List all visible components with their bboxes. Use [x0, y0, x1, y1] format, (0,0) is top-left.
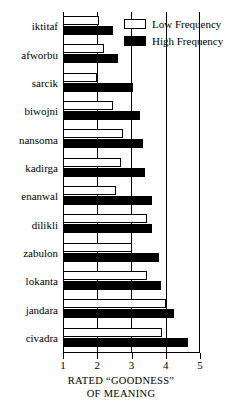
bar-high-frequency [63, 338, 188, 347]
bar-low-frequency [63, 271, 147, 280]
bar-low-frequency [63, 158, 121, 167]
bar-high-frequency [63, 83, 133, 92]
category-label: zabulon [0, 247, 58, 259]
bar-high-frequency [63, 253, 159, 262]
bar-row [63, 210, 200, 238]
category-label: sarcik [0, 77, 58, 89]
bar-row [63, 182, 200, 210]
category-label: dilikli [0, 219, 58, 231]
x-tick-label: 1 [53, 359, 73, 372]
bar-high-frequency [63, 54, 118, 63]
legend: Low Frequency High Frequency [124, 16, 238, 50]
bar-row [63, 154, 200, 182]
bar-low-frequency [63, 214, 147, 223]
bar-row [63, 69, 200, 97]
x-tick-label: 3 [122, 359, 142, 372]
bar-high-frequency [63, 309, 174, 318]
bar-low-frequency [63, 101, 113, 110]
bar-low-frequency [63, 44, 104, 53]
legend-item-high-frequency: High Frequency [124, 33, 238, 48]
bar-row [63, 239, 200, 267]
bar-high-frequency [63, 281, 161, 290]
bar-low-frequency [63, 328, 162, 337]
x-tick-label: 5 [190, 359, 210, 372]
category-label: iktitaf [0, 20, 58, 32]
bar-high-frequency [63, 111, 140, 120]
category-label: kadirga [0, 162, 58, 174]
bar-low-frequency [63, 129, 123, 138]
category-label: jandara [0, 304, 58, 316]
legend-item-low-frequency: Low Frequency [124, 16, 238, 31]
legend-swatch-low-frequency-icon [124, 19, 146, 29]
bar-row [63, 125, 200, 153]
x-axis-title-line-1: RATED “GOODNESS” [0, 375, 242, 388]
bar-high-frequency [63, 224, 152, 233]
bar-high-frequency [63, 26, 113, 35]
x-tick-label: 2 [87, 359, 107, 372]
bar-row [63, 267, 200, 295]
bar-row [63, 97, 200, 125]
bar-row [63, 295, 200, 323]
bar-low-frequency [63, 186, 116, 195]
x-axis-title-line-2: OF MEANING [0, 388, 242, 401]
bar-high-frequency [63, 196, 152, 205]
category-label: nansoma [0, 134, 58, 146]
plot-area [63, 12, 200, 352]
bar-low-frequency [63, 16, 99, 25]
bar-row [63, 324, 200, 352]
bar-high-frequency [63, 168, 145, 177]
category-label: lokanta [0, 275, 58, 287]
bar-low-frequency [63, 243, 132, 252]
legend-label-low-frequency: Low Frequency [152, 18, 221, 30]
figure-container: iktitafafworbusarcikbiwojninansomakadirg… [0, 0, 242, 414]
x-axis-title: RATED “GOODNESS” OF MEANING [0, 375, 242, 400]
category-label: afworbu [0, 49, 58, 61]
bar-high-frequency [63, 139, 143, 148]
bar-low-frequency [63, 299, 166, 308]
x-tick-label: 4 [156, 359, 176, 372]
category-label: civadra [0, 332, 58, 344]
category-label: biwojni [0, 105, 58, 117]
legend-swatch-high-frequency-icon [124, 36, 146, 46]
legend-label-high-frequency: High Frequency [152, 35, 223, 47]
category-label: enanwal [0, 190, 58, 202]
bar-low-frequency [63, 73, 97, 82]
